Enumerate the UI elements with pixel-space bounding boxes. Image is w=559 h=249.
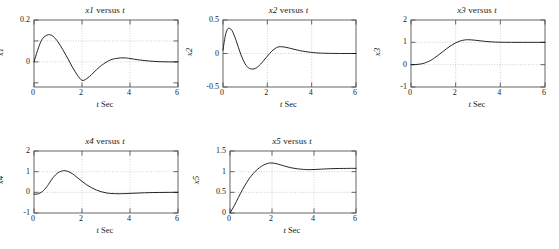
plot-panel-x2: x2 versus t0.50-0.50246t Secx2 — [222, 19, 356, 87]
title-connector: versus — [277, 5, 305, 15]
title-connector: versus — [281, 136, 309, 146]
x-tick-label: 6 — [353, 214, 357, 223]
y-axis-label-x1: x1 — [0, 40, 5, 64]
y-tick-label: 0 — [196, 208, 226, 217]
x-axis-unit: Sec — [471, 99, 485, 109]
panel-title-x3: x3 versus t — [410, 5, 544, 15]
plot-frame — [230, 151, 356, 213]
y-tick-label: -0.5 — [189, 82, 219, 91]
title-variable: x4 — [85, 136, 94, 146]
plot-frame — [411, 20, 545, 87]
title-connector: versus — [94, 5, 122, 15]
x-tick-label: 6 — [175, 88, 179, 97]
x-axis-label-x5: t Sec — [229, 225, 355, 235]
x-axis-label-x4: t Sec — [33, 225, 177, 235]
title-time-var: t — [494, 5, 497, 15]
x-axis-unit: Sec — [286, 225, 300, 235]
plot-area-x4 — [33, 150, 179, 214]
x-tick-label: 6 — [542, 88, 546, 97]
title-variable: x3 — [457, 5, 466, 15]
panel-title-x5: x5 versus t — [229, 136, 355, 146]
figure-canvas: x1 versus t0.200246t Secx1x2 versus t0.5… — [0, 0, 559, 249]
y-tick-label: 0.2 — [0, 15, 30, 24]
x-tick-label: 6 — [353, 88, 357, 97]
x-tick-label: 4 — [311, 214, 315, 223]
title-connector: versus — [94, 136, 122, 146]
x-axis-label-x3: t Sec — [410, 99, 544, 109]
panel-title-x1: x1 versus t — [33, 5, 177, 15]
x-axis-unit: Sec — [282, 99, 296, 109]
x-tick-label: 4 — [309, 88, 313, 97]
title-variable: x5 — [272, 136, 281, 146]
x-tick-label: 0 — [220, 88, 224, 97]
x-tick-label: 0 — [227, 214, 231, 223]
x-axis-unit: Sec — [99, 225, 113, 235]
x-tick-label: 2 — [79, 214, 83, 223]
y-tick-label: -1 — [377, 82, 407, 91]
plot-area-x1 — [33, 19, 179, 88]
x-tick-label: 4 — [127, 214, 131, 223]
x-axis-unit: Sec — [99, 99, 113, 109]
y-axis-label-x2: x2 — [184, 40, 194, 64]
title-time-var: t — [306, 5, 309, 15]
data-curve-x4 — [34, 171, 178, 195]
y-tick-label: 0.5 — [189, 15, 219, 24]
x-tick-label: 2 — [269, 214, 273, 223]
plot-panel-x5: x5 versus t1.510.500246t Secx5 — [229, 150, 356, 213]
plot-frame — [34, 151, 178, 213]
title-connector: versus — [466, 5, 494, 15]
x-tick-label: 6 — [175, 214, 179, 223]
x-axis-label-x1: t Sec — [33, 99, 177, 109]
plot-panel-x1: x1 versus t0.200246t Secx1 — [33, 19, 178, 87]
y-axis-label-x3: x3 — [372, 40, 382, 64]
x-tick-label: 2 — [264, 88, 268, 97]
data-curve-x2 — [223, 28, 356, 69]
plot-area-x2 — [222, 19, 357, 88]
y-axis-label-x4: x4 — [0, 168, 5, 192]
x-tick-label: 4 — [127, 88, 131, 97]
panel-title-x4: x4 versus t — [33, 136, 177, 146]
y-tick-label: 2 — [0, 146, 30, 155]
y-axis-label-x5: x5 — [191, 168, 201, 192]
title-time-var: t — [122, 5, 125, 15]
x-tick-label: 0 — [408, 88, 412, 97]
x-axis-label-x2: t Sec — [222, 99, 355, 109]
title-time-var: t — [309, 136, 312, 146]
panel-title-x2: x2 versus t — [222, 5, 355, 15]
data-curve-x5 — [230, 163, 356, 213]
plot-area-x5 — [229, 150, 357, 214]
x-tick-label: 2 — [453, 88, 457, 97]
y-tick-label: 2 — [377, 15, 407, 24]
x-tick-label: 0 — [31, 88, 35, 97]
y-tick-label: 1.5 — [196, 146, 226, 155]
plot-frame — [34, 20, 178, 87]
title-time-var: t — [122, 136, 125, 146]
y-tick-label: -1 — [0, 208, 30, 217]
data-curve-x1 — [34, 34, 178, 80]
plot-panel-x4: x4 versus t210-10246t Secx4 — [33, 150, 178, 213]
data-curve-x3 — [411, 40, 545, 65]
plot-panel-x3: x3 versus t210-10246t Secx3 — [410, 19, 545, 87]
plot-area-x3 — [410, 19, 546, 88]
x-tick-label: 4 — [497, 88, 501, 97]
title-variable: x1 — [85, 5, 94, 15]
x-tick-label: 2 — [79, 88, 83, 97]
x-tick-label: 0 — [31, 214, 35, 223]
